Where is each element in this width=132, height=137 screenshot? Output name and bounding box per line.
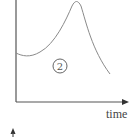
- region-marker-label: 2: [57, 61, 63, 72]
- x-axis-arrow-icon: [122, 99, 129, 105]
- x-axis-label: time: [106, 108, 127, 120]
